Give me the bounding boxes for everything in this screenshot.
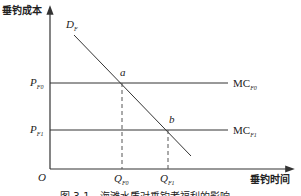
q-f1-label: QF1 [160,172,175,186]
y-axis-label: 垂钓成本 [2,4,43,16]
origin-label: O [38,171,46,183]
q-f0-label: QF0 [114,172,129,186]
x-axis-label: 垂钓时间 [250,173,290,185]
mc-f1-label: MCF1 [233,124,257,138]
point-a-label: a [120,66,126,78]
demand-curve-label: DF [65,18,78,32]
point-b-label: b [169,113,175,125]
price-f1-label: PF1 [29,123,43,137]
price-f0-label: PF0 [29,76,43,90]
mc-f0-label: MCF0 [233,77,257,91]
figure-caption: 图 3-1 海滩水质对垂钓者福利的影响 [60,190,230,196]
welfare-diagram: 垂钓成本 垂钓时间 O DF PF0 PF1 MCF0 MCF1 a b QF0… [0,0,301,196]
demand-curve [74,35,191,156]
